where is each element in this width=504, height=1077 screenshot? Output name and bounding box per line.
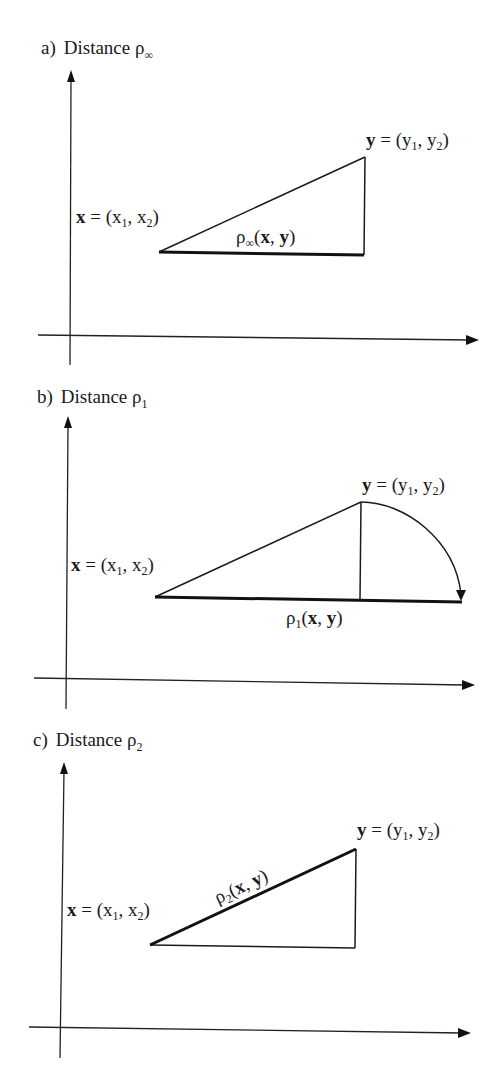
horizontal-leg: [150, 945, 355, 948]
hypotenuse-highlighted: [150, 849, 356, 945]
point-x-label: x = (x1, x2): [67, 899, 150, 923]
horizontal-leg-highlighted: [159, 252, 364, 255]
vertical-leg: [364, 157, 365, 255]
panel-b-title: b)Distance ρ1: [37, 386, 148, 411]
point-y-label: y = (y1, y2): [357, 819, 440, 843]
vertical-leg: [355, 849, 356, 948]
y-axis: [66, 424, 68, 709]
panel-c-title: c)Distance ρ2: [33, 729, 142, 754]
arc-arrow-icon: [456, 590, 466, 601]
vertical-leg: [360, 502, 361, 600]
point-x-label: x = (x1, x2): [76, 206, 159, 230]
y-axis: [70, 78, 71, 365]
panel-b: b)Distance ρ1 x = (x1, x2) y = (y1, y2) …: [34, 386, 475, 709]
point-y-label: y = (y1, y2): [362, 474, 445, 498]
point-x-label: x = (x1, x2): [71, 554, 154, 578]
distance-label: ρ∞(x, y): [236, 226, 295, 250]
x-axis-arrow-icon: [466, 335, 479, 345]
panel-a-title: a)Distance ρ∞: [41, 37, 153, 62]
y-axis-arrow-icon: [64, 416, 72, 428]
y-axis: [60, 770, 64, 1058]
y-axis-arrow-icon: [67, 70, 75, 82]
horizontal-leg-highlighted: [155, 597, 462, 602]
x-axis-arrow-icon: [458, 1028, 471, 1038]
panel-c: c)Distance ρ2 x = (x1, x2) y = (y1, y2) …: [29, 729, 471, 1058]
panel-a: a)Distance ρ∞ x = (x1, x2) y = (y1, y2) …: [38, 37, 479, 365]
x-axis-arrow-icon: [462, 680, 475, 690]
distance-diagram: a)Distance ρ∞ x = (x1, x2) y = (y1, y2) …: [0, 0, 504, 1077]
x-axis: [38, 335, 470, 340]
hypotenuse: [155, 502, 361, 597]
y-axis-arrow-icon: [60, 762, 68, 774]
distance-label: ρ1(x, y): [286, 607, 343, 631]
rotation-arc: [361, 502, 461, 594]
x-axis: [29, 1027, 462, 1033]
x-axis: [34, 678, 466, 685]
point-y-label: y = (y1, y2): [366, 129, 449, 153]
